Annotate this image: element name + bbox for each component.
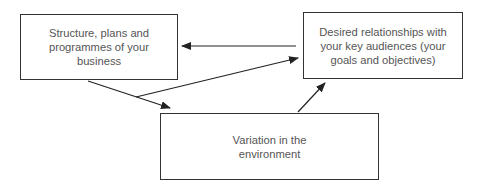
node-structure-label: Structure, plans and programmes of your … (33, 26, 165, 68)
node-relationships-label: Desired relationships with your key audi… (314, 25, 452, 67)
node-relationships: Desired relationships with your key audi… (303, 12, 463, 79)
node-variation: Variation in the environment (160, 113, 379, 180)
node-variation-label: Variation in the environment (201, 133, 338, 161)
arrow-structure-to-variation (88, 81, 170, 108)
node-structure: Structure, plans and programmes of your … (20, 14, 178, 80)
arrow-variation-to-relationships (298, 83, 325, 112)
